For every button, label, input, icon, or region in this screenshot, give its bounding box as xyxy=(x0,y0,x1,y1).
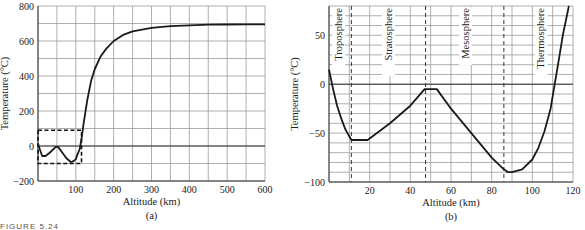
y-tick-label: −100 xyxy=(304,177,325,188)
x-tick-label: 100 xyxy=(68,184,83,195)
y-tick-label: 0 xyxy=(29,141,34,152)
y-tick-label: 800 xyxy=(19,1,34,12)
x-tick-label: 120 xyxy=(566,185,581,196)
y-tick-label: 0 xyxy=(320,79,325,90)
grid xyxy=(38,6,265,181)
region-label-mesosphere: Mesosphere xyxy=(460,8,471,59)
region-label-troposphere: Troposphere xyxy=(333,8,344,61)
x-tick-label: 20 xyxy=(365,185,375,196)
x-tick-label: 300 xyxy=(144,184,159,195)
x-axis-label: Altitude (km) xyxy=(123,196,181,208)
y-axis-label: Temperature (°C) xyxy=(289,57,301,131)
y-tick-label: 200 xyxy=(19,106,34,117)
x-tick-label: 40 xyxy=(405,185,415,196)
figure-caption: FIGURE 5.24 xyxy=(0,222,59,230)
y-axis-label: Temperature (°C) xyxy=(0,56,11,130)
x-tick-label: 500 xyxy=(220,184,235,195)
zoom-region-box xyxy=(38,130,82,163)
x-tick-label: 100 xyxy=(525,185,540,196)
region-label-stratosphere: Stratosphere xyxy=(383,8,394,61)
panel-label: (b) xyxy=(445,211,458,223)
y-tick-label: −50 xyxy=(309,128,325,139)
atmosphere-temperature-figure: 100200300400500600−2000200400600800Altit… xyxy=(0,0,585,230)
x-axis-label: Altitude (km) xyxy=(422,197,480,209)
chart-panel-a: 100200300400500600−2000200400600800Altit… xyxy=(0,1,273,223)
y-tick-label: 50 xyxy=(315,30,325,41)
x-tick-label: 400 xyxy=(182,184,197,195)
x-tick-label: 80 xyxy=(487,185,497,196)
panel-label: (a) xyxy=(146,210,158,222)
chart-panel-b: TroposphereStratosphereMesosphereThermos… xyxy=(289,6,581,223)
x-tick-label: 60 xyxy=(446,185,456,196)
temperature-curve xyxy=(329,6,569,172)
x-tick-label: 200 xyxy=(106,184,121,195)
y-tick-label: 600 xyxy=(19,36,34,47)
x-tick-label: 600 xyxy=(258,184,273,195)
y-tick-label: 400 xyxy=(19,71,34,82)
y-tick-label: −200 xyxy=(13,176,34,187)
region-label-thermosphere: Thermosphere xyxy=(535,8,546,69)
